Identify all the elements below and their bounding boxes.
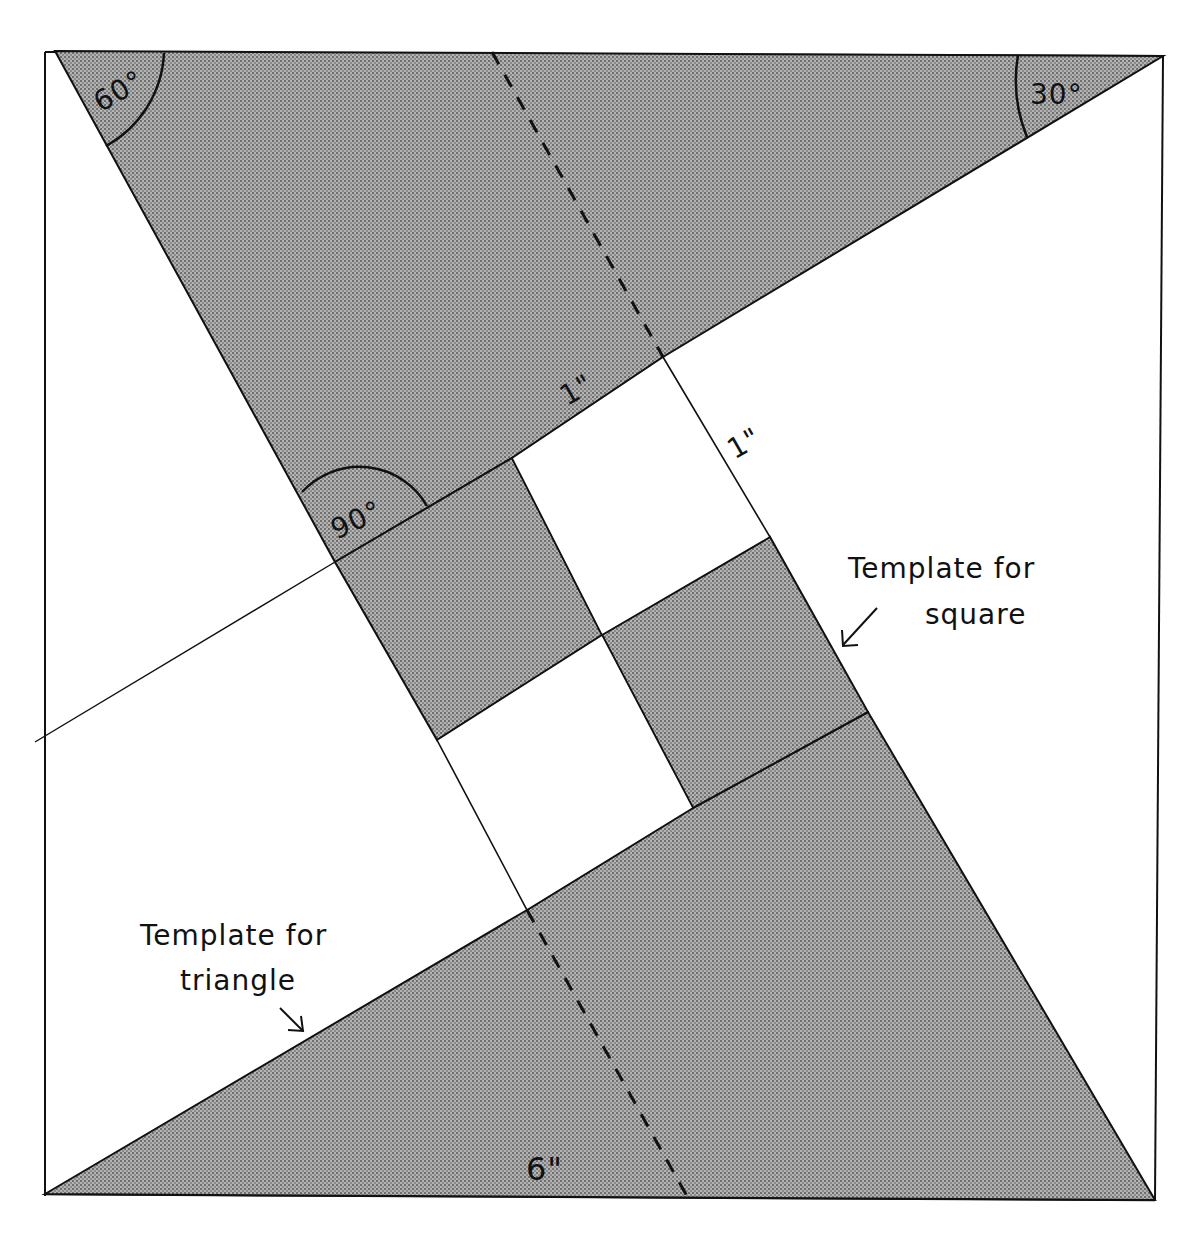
annotation-square-line1: Template for: [847, 552, 1035, 585]
arrow-icon-square: [842, 608, 877, 646]
annotation-square-line2: square: [925, 598, 1026, 631]
annotation-triangle: Template for triangle: [139, 919, 327, 1031]
dimension-label-square-side: 1": [722, 421, 767, 466]
diagram-canvas: 60° 30° 90° 1" 1" 6" Template for square…: [0, 0, 1198, 1238]
dimension-label-long-side: 6": [526, 1150, 563, 1188]
annotation-square: Template for square: [842, 552, 1035, 646]
annotation-triangle-line2: triangle: [180, 964, 296, 997]
annotation-triangle-line1: Template for: [139, 919, 327, 952]
angle-label-30: 30°: [1030, 78, 1083, 111]
extension-line: [35, 562, 335, 742]
arrow-icon-triangle: [280, 1008, 303, 1031]
